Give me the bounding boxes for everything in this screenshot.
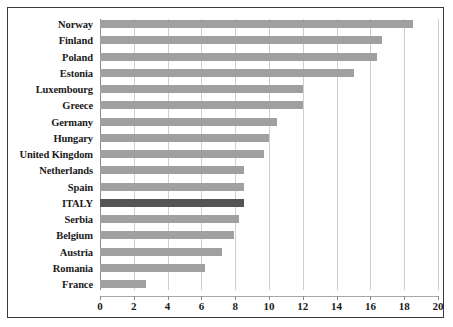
category-label: United Kingdom [8, 149, 98, 160]
chart-frame: NorwayFinlandPolandEstoniaLuxembourgGree… [7, 7, 444, 318]
category-label: Serbia [8, 214, 98, 225]
plot-area [100, 19, 438, 290]
category-label: ITALY [8, 198, 98, 209]
gridline [438, 19, 439, 290]
category-label: Luxembourg [8, 84, 98, 95]
bar-row [100, 149, 438, 160]
bar-row [100, 19, 438, 30]
bar-row [100, 35, 438, 46]
bar-highlighted [100, 199, 244, 207]
tick-label: 14 [331, 300, 342, 312]
category-label: Belgium [8, 230, 98, 241]
bar-series [100, 19, 438, 290]
bar-row [100, 214, 438, 225]
bar [100, 118, 277, 126]
category-label: Austria [8, 247, 98, 258]
category-axis-labels: NorwayFinlandPolandEstoniaLuxembourgGree… [8, 19, 98, 290]
tick-label: 8 [232, 300, 238, 312]
bar [100, 215, 239, 223]
tick-label: 18 [399, 300, 410, 312]
bar [100, 183, 244, 191]
category-label: Norway [8, 19, 98, 30]
bar-row [100, 68, 438, 79]
bar-row [100, 198, 438, 209]
bar-row [100, 247, 438, 258]
bar-row [100, 230, 438, 241]
bar-row [100, 100, 438, 111]
tick-label: 12 [297, 300, 308, 312]
tick-label: 2 [131, 300, 137, 312]
bar [100, 85, 303, 93]
tick-label: 20 [433, 300, 444, 312]
bar [100, 69, 354, 77]
bar [100, 20, 413, 28]
bar [100, 53, 377, 61]
bar-row [100, 263, 438, 274]
category-label: Romania [8, 263, 98, 274]
bar [100, 264, 205, 272]
bar [100, 134, 269, 142]
tick-label: 4 [165, 300, 171, 312]
bar-row [100, 133, 438, 144]
bar-row [100, 165, 438, 176]
category-label: Hungary [8, 133, 98, 144]
tick-label: 6 [199, 300, 205, 312]
bar-row [100, 117, 438, 128]
category-label: Poland [8, 52, 98, 63]
category-label: Estonia [8, 68, 98, 79]
bar [100, 248, 222, 256]
chart-plot-wrapper: NorwayFinlandPolandEstoniaLuxembourgGree… [8, 8, 443, 317]
bar [100, 36, 382, 44]
value-axis-ticks: 02468101214161820 [100, 296, 438, 318]
category-label: Spain [8, 182, 98, 193]
bar-row [100, 182, 438, 193]
category-label: Netherlands [8, 165, 98, 176]
tick-label: 0 [97, 300, 103, 312]
category-label: Finland [8, 35, 98, 46]
bar-row [100, 279, 438, 290]
bar [100, 101, 303, 109]
tick-label: 16 [365, 300, 376, 312]
category-label: Germany [8, 117, 98, 128]
bar-row [100, 52, 438, 63]
category-label: France [8, 279, 98, 290]
bar [100, 231, 234, 239]
category-label: Greece [8, 100, 98, 111]
tick-label: 10 [264, 300, 275, 312]
bar-row [100, 84, 438, 95]
bar [100, 166, 244, 174]
bar [100, 280, 146, 288]
bar [100, 150, 264, 158]
